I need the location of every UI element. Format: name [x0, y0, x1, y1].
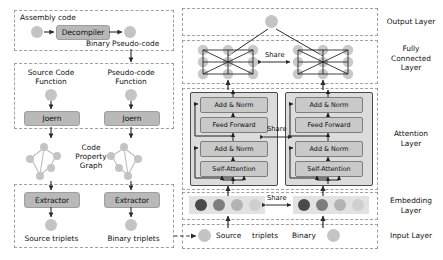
source-code-function-label-line2: Function	[21, 77, 81, 86]
share-label-embedding: Share	[267, 194, 287, 202]
decompiler-box[interactable]: Decompiler	[56, 25, 110, 40]
embedding-dot-left-1	[195, 199, 207, 211]
attention-layer-label-line1: Attention	[382, 129, 440, 139]
fully-connected-layer-group	[182, 40, 378, 84]
share-label-fully-connected: Share	[265, 51, 285, 59]
pseudo-function-node	[125, 89, 137, 101]
fully-connected-layer-label-line3: Layer	[382, 63, 440, 73]
cpg-graph-left-nodes	[26, 143, 61, 180]
source-triplets-node	[45, 219, 57, 231]
input-node-binary	[327, 229, 340, 242]
assembly-code-label: Assembly code	[20, 13, 76, 22]
embedding-dot-left-3	[231, 199, 243, 211]
self-attention-box-right[interactable]: Self-Attention	[295, 161, 363, 177]
code-property-graph-label-line2: Property	[62, 152, 120, 161]
fully-connected-layer-label-line1: Fully	[382, 44, 440, 54]
add-norm-box-left-bottom[interactable]: Add & Norm	[200, 141, 268, 157]
attention-layer-label-line2: Layer	[382, 139, 440, 149]
embedding-dot-right-1	[298, 199, 310, 211]
add-norm-box-right-top[interactable]: Add & Norm	[295, 97, 363, 113]
pseudocode-function-label-line1: Pseudo-code	[100, 68, 162, 77]
input-token-source: Source	[216, 231, 241, 240]
cpg-graph-left	[31, 148, 56, 175]
input-node-source	[198, 229, 211, 242]
source-triplets-label: Source triplets	[14, 234, 89, 243]
joern-box-left[interactable]: Joern	[24, 111, 80, 126]
embedding-dot-left-2	[213, 199, 225, 211]
add-norm-box-left-top[interactable]: Add & Norm	[200, 97, 268, 113]
output-layer-group	[182, 8, 378, 36]
code-property-graph-label-line1: Code	[62, 143, 120, 152]
share-label-attention: Share	[267, 125, 287, 133]
source-code-function-label-line1: Source Code	[21, 68, 81, 77]
binary-triplets-node	[125, 219, 137, 231]
embedding-dot-right-4	[352, 199, 364, 211]
self-attention-box-left[interactable]: Self-Attention	[200, 161, 268, 177]
fully-connected-layer-label-line2: Connected	[382, 54, 440, 64]
feed-forward-box-left[interactable]: Feed Forward	[200, 117, 268, 133]
embedding-layer-label-line2: Layer	[382, 206, 440, 216]
pseudocode-function-label-line2: Function	[100, 77, 162, 86]
binary-triplets-label: Binary triplets	[96, 234, 171, 243]
extractor-box-left[interactable]: Extractor	[24, 192, 80, 208]
embedding-dot-right-3	[334, 199, 346, 211]
input-layer-group	[182, 224, 378, 249]
output-layer-node	[265, 15, 278, 28]
add-norm-box-right-bottom[interactable]: Add & Norm	[295, 141, 363, 157]
extractor-box-right[interactable]: Extractor	[104, 192, 160, 208]
pseudocode-node	[124, 26, 136, 38]
embedding-layer-label-line1: Embedding	[382, 196, 440, 206]
output-layer-label: Output Layer	[382, 17, 440, 27]
assembly-code-node	[31, 26, 43, 38]
input-token-triplets: triplets	[252, 231, 278, 240]
code-property-graph-label-line3: Graph	[62, 161, 120, 170]
input-layer-label: Input Layer	[382, 231, 440, 241]
feed-forward-box-right[interactable]: Feed Forward	[295, 117, 363, 133]
binary-pseudocode-label: Binary Pseudo-code	[86, 39, 159, 48]
joern-box-right[interactable]: Joern	[104, 111, 160, 126]
input-token-binary: Binary	[292, 231, 316, 240]
embedding-dot-right-2	[316, 199, 328, 211]
source-function-node	[45, 89, 57, 101]
embedding-dot-left-4	[249, 199, 261, 211]
